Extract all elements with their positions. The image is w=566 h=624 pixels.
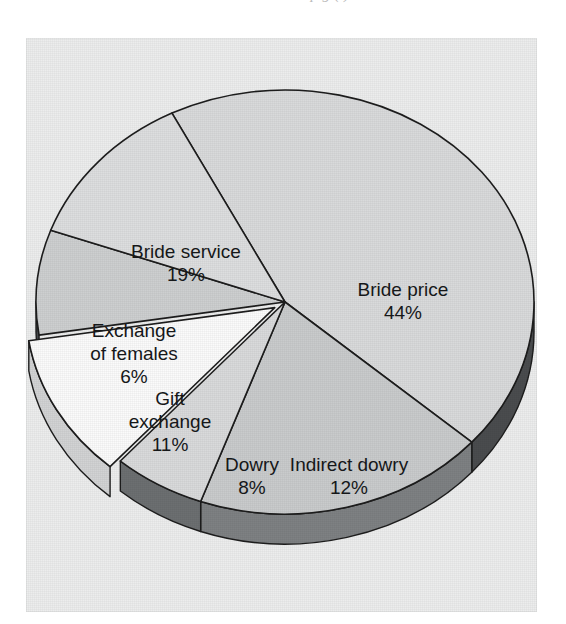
pie-slice-tops (29, 90, 534, 514)
slice-label-bride-price: Bride price (358, 279, 449, 300)
slice-value-bride-service: 19% (167, 264, 205, 285)
figure-panel: Bride price44%Bride service19%Exchangeof… (26, 38, 537, 612)
slice-value-indirect-dowry: 12% (330, 477, 368, 498)
slice-value-dowry: 8% (238, 477, 266, 498)
slice-value-exchange-of-females: 6% (120, 366, 148, 387)
slice-label-bride-service: Bride service (131, 241, 241, 262)
slice-label-indirect-dowry: Indirect dowry (290, 454, 409, 475)
slice-value-gift-exchange: 11% (152, 434, 189, 455)
clipped-body-text-above-figure: tation. ... is ... p g ( ) (0, 0, 566, 4)
pie-chart: Bride price44%Bride service19%Exchangeof… (26, 38, 537, 612)
slice-value-bride-price: 44% (384, 302, 422, 323)
slice-label-dowry: Dowry (225, 454, 279, 475)
